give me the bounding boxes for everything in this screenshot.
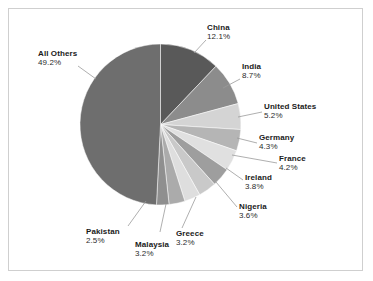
callout-india: India 8.7% [242,63,261,81]
callout-china-value: 12.1% [207,33,230,42]
callout-malaysia-value: 3.2% [135,250,169,259]
callout-malaysia: Malaysia 3.2% [135,241,169,259]
leader-line-germany [237,138,257,143]
leader-line-united-states [238,112,262,117]
callout-pakistan-value: 2.5% [86,237,120,246]
callout-nigeria-value: 3.6% [239,212,267,221]
pie-chart-screenshot: All Others 49.2% China 12.1% India 8.7% … [0,0,373,281]
leader-line-malaysia [160,204,166,232]
leader-line-pakistan [128,201,146,226]
callout-ireland-value: 3.8% [245,183,272,192]
callout-pakistan: Pakistan 2.5% [86,228,120,246]
callout-china: China 12.1% [207,24,230,42]
callout-germany: Germany 4.3% [259,134,294,152]
leader-line-all-others [78,66,96,79]
callout-united-states: United States 5.2% [264,103,316,121]
callout-nigeria: Nigeria 3.6% [239,203,267,221]
callout-all-others-value: 49.2% [38,59,77,68]
callout-united-states-value: 5.2% [264,112,316,121]
pie-slice-all-others [80,44,161,205]
callout-ireland: Ireland 3.8% [245,174,272,192]
callout-greece-value: 3.2% [176,239,204,248]
callout-greece: Greece 3.2% [176,230,204,248]
leader-line-ireland [226,168,243,180]
leader-line-china [194,40,206,53]
pie-slices-group [80,44,241,205]
leader-line-france [232,155,277,163]
leader-line-nigeria [216,182,237,207]
callout-france: France 4.2% [279,155,306,173]
callout-germany-value: 4.3% [259,143,294,152]
callout-france-value: 4.2% [279,164,306,173]
callout-all-others: All Others 49.2% [38,50,77,68]
callout-india-value: 8.7% [242,72,261,81]
